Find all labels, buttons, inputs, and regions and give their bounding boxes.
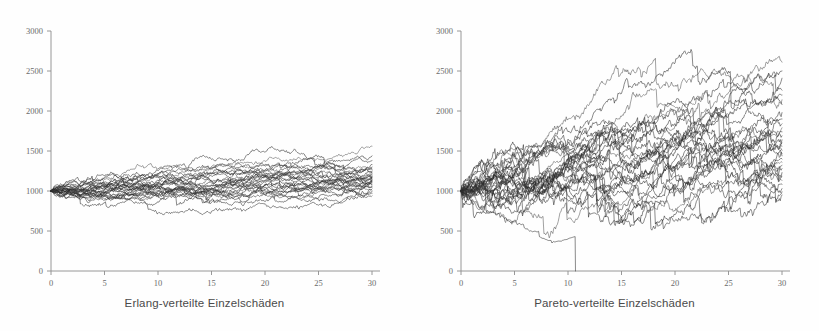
panel-pareto: 050010001500200025003000051015202530 Par…: [410, 0, 819, 331]
svg-text:30: 30: [778, 278, 787, 288]
erlang-plot: 050010001500200025003000051015202530: [0, 0, 409, 295]
svg-text:0: 0: [39, 266, 43, 276]
svg-text:1000: 1000: [26, 186, 43, 196]
erlang-caption: Erlang-verteilte Einzelschäden: [0, 297, 409, 309]
svg-text:1500: 1500: [436, 146, 453, 156]
svg-text:2000: 2000: [26, 106, 43, 116]
pareto-caption: Pareto-verteilte Einzelschäden: [410, 297, 819, 309]
svg-text:2500: 2500: [26, 66, 43, 76]
svg-text:25: 25: [724, 278, 733, 288]
svg-text:0: 0: [459, 278, 463, 288]
pareto-plot: 050010001500200025003000051015202530: [410, 0, 819, 295]
simulation-figure: 050010001500200025003000051015202530 Erl…: [0, 0, 819, 331]
svg-text:500: 500: [440, 226, 453, 236]
svg-text:3000: 3000: [436, 26, 453, 36]
panel-erlang: 050010001500200025003000051015202530 Erl…: [0, 0, 409, 331]
svg-text:500: 500: [30, 226, 43, 236]
svg-text:2500: 2500: [436, 66, 453, 76]
svg-text:3000: 3000: [26, 26, 43, 36]
svg-text:10: 10: [154, 278, 163, 288]
svg-text:15: 15: [207, 278, 216, 288]
svg-text:10: 10: [564, 278, 573, 288]
svg-text:1500: 1500: [26, 146, 43, 156]
svg-text:25: 25: [314, 278, 323, 288]
svg-text:30: 30: [368, 278, 377, 288]
svg-text:20: 20: [261, 278, 270, 288]
svg-text:15: 15: [617, 278, 626, 288]
svg-text:0: 0: [449, 266, 453, 276]
svg-text:5: 5: [512, 278, 516, 288]
svg-text:5: 5: [102, 278, 106, 288]
svg-text:20: 20: [671, 278, 680, 288]
svg-text:1000: 1000: [436, 186, 453, 196]
svg-text:2000: 2000: [436, 106, 453, 116]
svg-text:0: 0: [49, 278, 53, 288]
